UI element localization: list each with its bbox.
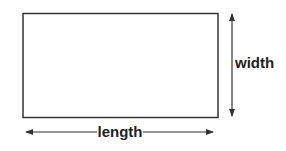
rectangle-shape [23,14,218,118]
width-label: width [234,54,274,71]
length-label: length [98,123,143,140]
rectangle-diagram: width length [0,0,286,151]
